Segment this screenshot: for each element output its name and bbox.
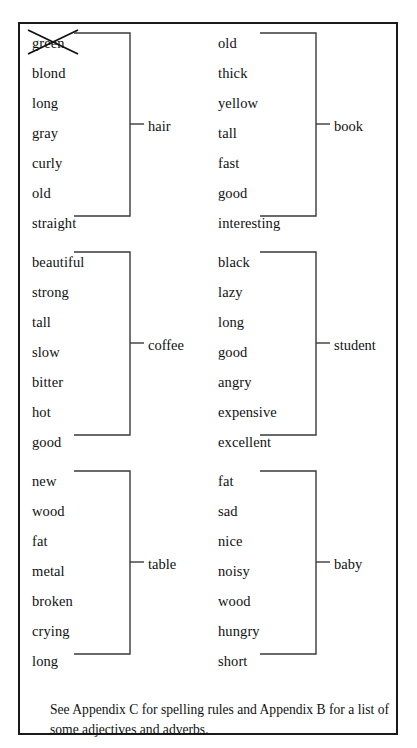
- word-column-left: green blond long gray curly old straight: [32, 24, 212, 234]
- word-column-left: new wood fat metal broken crying long: [32, 462, 212, 672]
- word-item[interactable]: wood: [32, 504, 65, 519]
- word-item[interactable]: good: [218, 345, 247, 360]
- word-column-left: beautiful strong tall slow bitter hot go…: [32, 243, 212, 453]
- group-label: table: [148, 557, 176, 572]
- word-item[interactable]: nice: [218, 534, 243, 549]
- word-item[interactable]: slow: [32, 345, 60, 360]
- word-item[interactable]: short: [218, 654, 248, 669]
- word-item[interactable]: thick: [218, 66, 248, 81]
- word-item[interactable]: lazy: [218, 285, 243, 300]
- word-item[interactable]: fat: [32, 534, 48, 549]
- word-item[interactable]: excellent: [218, 435, 271, 450]
- word-item[interactable]: hungry: [218, 624, 260, 639]
- word-item[interactable]: angry: [218, 375, 252, 390]
- exercise-figure-box: green blond long gray curly old straight…: [18, 22, 398, 735]
- word-item[interactable]: noisy: [218, 564, 250, 579]
- word-item[interactable]: beautiful: [32, 255, 84, 270]
- word-item[interactable]: straight: [32, 216, 76, 231]
- word-item[interactable]: long: [32, 96, 58, 111]
- word-item[interactable]: fat: [218, 474, 234, 489]
- word-column-right: old thick yellow tall fast good interest…: [218, 24, 398, 234]
- word-item[interactable]: gray: [32, 126, 58, 141]
- word-item[interactable]: good: [32, 435, 61, 450]
- word-item[interactable]: black: [218, 255, 250, 270]
- word-group: new wood fat metal broken crying long ta…: [20, 462, 396, 672]
- word-item[interactable]: strong: [32, 285, 69, 300]
- word-item[interactable]: wood: [218, 594, 251, 609]
- word-group: green blond long gray curly old straight…: [20, 24, 396, 234]
- word-item[interactable]: tall: [32, 315, 51, 330]
- word-item[interactable]: curly: [32, 156, 62, 171]
- word-item[interactable]: broken: [32, 594, 73, 609]
- word-item[interactable]: long: [32, 654, 58, 669]
- word-item[interactable]: tall: [218, 126, 237, 141]
- word-item[interactable]: yellow: [218, 96, 258, 111]
- word-item[interactable]: crying: [32, 624, 70, 639]
- word-item[interactable]: new: [32, 474, 56, 489]
- word-item[interactable]: good: [218, 186, 247, 201]
- word-item[interactable]: old: [218, 36, 237, 51]
- worksheet-page: green blond long gray curly old straight…: [0, 0, 417, 748]
- word-item[interactable]: hot: [32, 405, 51, 420]
- group-label: baby: [334, 557, 362, 572]
- word-column-right: fat sad nice noisy wood hungry short: [218, 462, 398, 672]
- word-item[interactable]: old: [32, 186, 51, 201]
- word-group: beautiful strong tall slow bitter hot go…: [20, 243, 396, 453]
- word-item[interactable]: metal: [32, 564, 65, 579]
- footnote-text: See Appendix C for spelling rules and Ap…: [50, 700, 390, 740]
- word-item[interactable]: expensive: [218, 405, 277, 420]
- word-item[interactable]: sad: [218, 504, 238, 519]
- group-label: book: [334, 119, 363, 134]
- word-item[interactable]: long: [218, 315, 244, 330]
- word-item[interactable]: blond: [32, 66, 66, 81]
- word-item[interactable]: fast: [218, 156, 239, 171]
- word-item[interactable]: bitter: [32, 375, 63, 390]
- word-item[interactable]: interesting: [218, 216, 280, 231]
- group-label: hair: [148, 119, 171, 134]
- word-text: green: [32, 35, 65, 51]
- word-item[interactable]: green: [32, 36, 65, 51]
- group-label: student: [334, 338, 376, 353]
- group-label: coffee: [148, 338, 184, 353]
